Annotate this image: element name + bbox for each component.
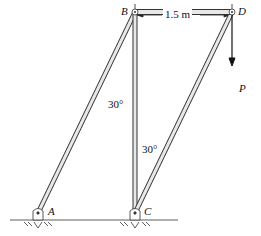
label-C: C xyxy=(144,205,151,217)
pin-D xyxy=(229,9,235,15)
load-arrow-P xyxy=(229,15,235,66)
label-P: P xyxy=(239,82,246,94)
member-AB xyxy=(38,12,135,213)
support-C xyxy=(130,209,140,221)
angle-label-B: 30° xyxy=(108,98,123,110)
pin-B xyxy=(132,9,138,15)
dimension-label: 1.5 m xyxy=(163,8,192,20)
truss-diagram: 1.5 m B D P A C 30° 30° xyxy=(0,0,261,236)
support-A xyxy=(33,209,43,221)
label-A: A xyxy=(48,205,55,217)
label-D: D xyxy=(238,5,246,17)
member-CD xyxy=(135,12,232,213)
diagram-graphic xyxy=(0,0,261,236)
angle-label-C: 30° xyxy=(142,143,157,155)
label-B: B xyxy=(121,5,128,17)
ground xyxy=(10,220,178,228)
